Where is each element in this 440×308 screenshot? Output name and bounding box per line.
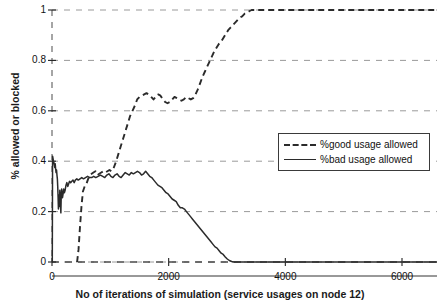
x-tick-label: 0	[22, 272, 82, 282]
x-axis-title: No of iterations of simulation (service …	[0, 288, 440, 300]
chart-figure: 00.20.40.60.81 0200040006000 % allowed o…	[0, 0, 440, 308]
x-tick-label: 4000	[255, 272, 315, 282]
legend-line-solid-icon	[283, 155, 317, 165]
legend-item-good: %good usage allowed	[283, 137, 424, 152]
series-line-bad	[52, 156, 437, 262]
y-tick-label: 1	[16, 5, 46, 15]
y-axis-title: % allowed or blocked	[9, 26, 21, 226]
legend-line-dashed-icon	[283, 140, 317, 150]
legend-label-bad: %bad usage allowed	[320, 154, 412, 165]
y-tick-label: 0	[16, 257, 46, 267]
legend-item-bad: %bad usage allowed	[283, 152, 424, 167]
legend-label-good: %good usage allowed	[320, 139, 418, 150]
x-axis-tick-labels: 0200040006000	[0, 272, 440, 286]
x-tick-label: 2000	[139, 272, 199, 282]
x-tick-label: 6000	[372, 272, 432, 282]
chart-legend: %good usage allowed %bad usage allowed	[278, 133, 430, 171]
